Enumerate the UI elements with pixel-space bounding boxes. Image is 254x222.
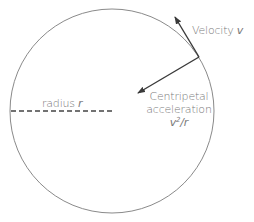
formula-rest: /r bbox=[180, 116, 188, 129]
radius-symbol: r bbox=[78, 97, 82, 110]
radius-label: radius r bbox=[42, 97, 82, 110]
centripetal-line1: Centripetal bbox=[143, 90, 215, 103]
radius-text: radius bbox=[42, 97, 78, 110]
velocity-arrow bbox=[175, 17, 199, 57]
centripetal-acceleration-arrow bbox=[138, 57, 199, 93]
velocity-text: Velocity bbox=[192, 24, 237, 37]
velocity-label: Velocity v bbox=[192, 24, 243, 37]
centripetal-acceleration-label: Centripetal acceleration v2/r bbox=[143, 90, 215, 129]
centripetal-formula: v2/r bbox=[143, 116, 215, 129]
velocity-symbol: v bbox=[237, 24, 243, 37]
centripetal-line2: acceleration bbox=[143, 103, 215, 116]
